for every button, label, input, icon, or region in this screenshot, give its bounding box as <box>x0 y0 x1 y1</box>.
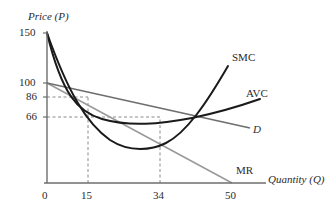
x-tick-label-0: 0 <box>42 190 48 201</box>
y-axis-title: Price (P) <box>28 11 69 22</box>
y-tick-label-66: 66 <box>26 111 37 122</box>
x-axis-title: Quantity (Q) <box>268 174 325 185</box>
x-tick-label-15: 15 <box>81 190 92 201</box>
guide-dashes <box>47 97 160 183</box>
curve-label-d: D <box>253 124 261 135</box>
y-tick-label-100: 100 <box>19 77 36 88</box>
x-tick-label-34: 34 <box>153 190 164 201</box>
curve-label-mr: MR <box>236 165 253 176</box>
x-tick-label-50: 50 <box>225 190 236 201</box>
y-tick-label-150: 150 <box>19 27 36 38</box>
y-tick-label-86: 86 <box>26 91 37 102</box>
curve-label-smc: SMC <box>232 52 255 63</box>
curve-avc <box>47 33 260 124</box>
economics-cost-curve-chart: Price (P) Quantity (Q) 150 100 86 66 0 1… <box>0 0 330 212</box>
curve-label-avc: AVC <box>246 88 268 99</box>
